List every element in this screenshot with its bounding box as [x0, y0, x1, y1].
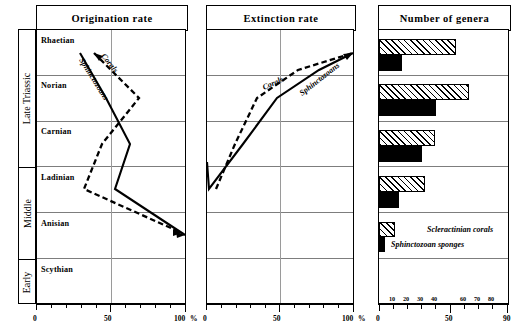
era-cell-late-triassic: Late Triassic	[19, 30, 35, 167]
bar-corals-carnian	[379, 130, 435, 146]
tick-80	[492, 304, 493, 309]
tick	[66, 304, 67, 308]
panel-title-origination: Origination rate	[36, 5, 188, 31]
extinction-curves: Corals Sphinctozoans	[207, 30, 355, 305]
legend-key-sponges	[379, 237, 385, 252]
tick-50	[110, 304, 111, 312]
bar-corals-rhaetian	[379, 39, 456, 55]
panel-title-text: Extinction rate	[244, 13, 319, 24]
tick	[236, 304, 237, 308]
bar-sponges-ladinian	[379, 192, 399, 208]
figure-root: Late Triassic Middle Early Origination r…	[0, 0, 514, 331]
xlabel-10: 10	[389, 295, 395, 302]
stage-gridline	[379, 75, 508, 76]
xlabel-20: 20	[403, 295, 409, 302]
tick-20	[407, 304, 408, 309]
panel-title-extinction: Extinction rate	[206, 5, 356, 31]
era-label: Middle	[22, 199, 33, 228]
tick-10	[393, 304, 394, 309]
bar-sponges-norian	[379, 100, 436, 116]
xlabel-100-extinction: 100	[342, 314, 353, 323]
xlabel-70: 70	[474, 295, 480, 302]
panel-title-text: Origination rate	[71, 13, 152, 24]
tick	[206, 304, 207, 310]
tick-70	[478, 304, 479, 309]
xlabel-30: 30	[417, 295, 423, 302]
tick-30	[421, 304, 422, 309]
xaxis-ticks-genera	[378, 304, 509, 312]
tick	[96, 304, 97, 308]
tick-50	[279, 304, 280, 312]
bar-corals-norian	[379, 84, 469, 100]
plot-origination: Rhaetian Norian Carnian Ladinian Anisian…	[36, 29, 186, 304]
xlabel-50-genera: 50	[445, 314, 453, 323]
plot-genera: Scleractinian corals Sphinctozoan sponge…	[378, 29, 509, 304]
tick-50	[450, 304, 451, 313]
tick	[250, 304, 251, 308]
bar-sponges-rhaetian	[379, 55, 402, 71]
tick	[265, 304, 266, 308]
bar-corals-ladinian	[379, 176, 425, 192]
xlabel-50-origination: 50	[104, 314, 112, 323]
xlabel-80: 80	[488, 295, 494, 302]
xlabel-90-genera: 90	[503, 314, 511, 323]
xlabel-0-extinction: 0	[203, 314, 207, 323]
tick	[294, 304, 295, 308]
era-column: Late Triassic Middle Early	[18, 29, 36, 304]
tick	[81, 304, 82, 308]
xlabel-0-genera: 0	[376, 314, 380, 323]
xunit-origination: %	[190, 314, 198, 323]
stage-gridline	[379, 166, 508, 167]
legend-label-corals: Scleractinian corals	[427, 225, 493, 234]
tick-90	[507, 304, 508, 313]
tick	[125, 304, 126, 308]
tick	[323, 304, 324, 308]
tick-0	[379, 304, 380, 311]
stage-gridline	[379, 121, 508, 122]
era-label: Early	[22, 271, 33, 293]
legend-label-sponges: Sphinctozoan sponges	[391, 240, 464, 249]
xunit-extinction: %	[358, 314, 366, 323]
era-cell-middle: Middle	[19, 167, 35, 259]
era-cell-early: Early	[19, 259, 35, 305]
tick	[51, 304, 52, 308]
plot-extinction: Corals Sphinctozoans	[206, 29, 354, 304]
stage-gridline	[379, 258, 508, 259]
bar-sponges-carnian	[379, 146, 422, 162]
curve-label-corals: Corals	[261, 75, 285, 92]
tick-100	[353, 304, 354, 312]
panel-title-genera: Number of genera	[378, 5, 511, 31]
tick-60	[464, 304, 465, 309]
stage-gridline	[379, 212, 508, 213]
xlabel-100-origination: 100	[174, 314, 185, 323]
tick	[155, 304, 156, 308]
tick	[36, 304, 37, 310]
xlabel-60: 60	[460, 295, 466, 302]
tick-100	[185, 304, 186, 312]
xaxis-ticks-extinction	[206, 304, 354, 312]
origination-curves: Corals Sphinctozoans	[37, 30, 187, 305]
tick	[170, 304, 171, 308]
tick	[338, 304, 339, 308]
tick-40	[435, 304, 436, 309]
panel-title-text: Number of genera	[400, 13, 489, 24]
legend-key-corals	[379, 222, 395, 237]
xlabel-0-origination: 0	[33, 314, 37, 323]
era-label: Late Triassic	[22, 73, 33, 124]
tick	[140, 304, 141, 308]
xaxis-ticks-origination	[36, 304, 186, 312]
xlabel-50-extinction: 50	[273, 314, 281, 323]
tick	[309, 304, 310, 308]
tick	[221, 304, 222, 308]
xlabel-40: 40	[431, 295, 437, 302]
